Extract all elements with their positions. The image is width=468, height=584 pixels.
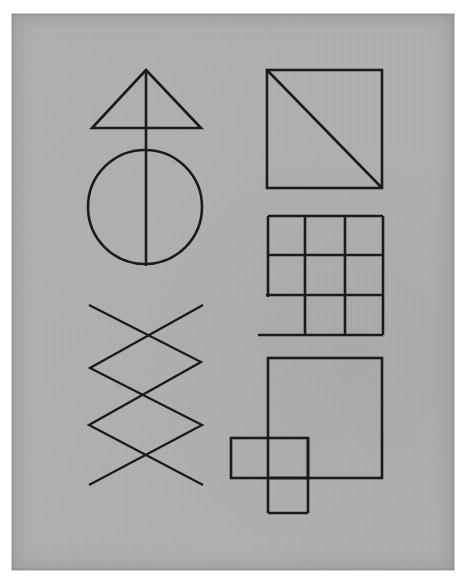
paper-sheet [12, 14, 454, 570]
page-root [0, 0, 468, 584]
scan-vignette [12, 14, 454, 570]
paper-grain-texture [12, 14, 454, 570]
